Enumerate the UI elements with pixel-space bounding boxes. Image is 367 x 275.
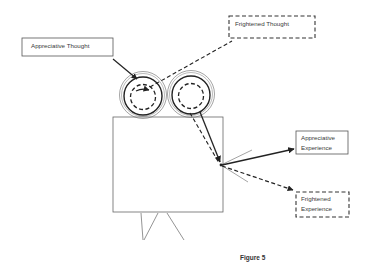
tripod-leg-left-line xyxy=(144,213,158,240)
figure-5-diagram: Appreciative Thought Frightened Thought xyxy=(0,0,367,275)
tripod-leg-left xyxy=(141,213,143,240)
appreciative-experience-box: Appreciative Experience xyxy=(296,131,348,154)
camera-lens xyxy=(220,150,252,182)
frightened-thought-label: Frightened Thought xyxy=(235,20,289,27)
tripod-leg-right xyxy=(167,213,184,240)
frightened-thought-box: Frightened Thought xyxy=(229,16,315,38)
frightened-experience-label-line2: Experience xyxy=(301,205,333,212)
arrow-appreciative-thought-to-reel xyxy=(113,59,137,79)
camera-left-reel xyxy=(120,72,167,119)
figure-caption: Figure 5 xyxy=(240,254,266,262)
appreciative-thought-box: Appreciative Thought xyxy=(22,38,113,56)
appreciative-thought-label: Appreciative Thought xyxy=(31,42,90,49)
arrow-reel-to-lens-solid xyxy=(200,112,220,162)
appreciative-experience-label-line2: Experience xyxy=(301,144,333,151)
frightened-experience-label-line1: Frightened xyxy=(301,195,331,202)
camera-body xyxy=(113,117,223,212)
camera-right-reel xyxy=(168,71,215,118)
frightened-experience-box: Frightened Experience xyxy=(296,192,349,217)
arrow-reel-to-lens-dashed xyxy=(190,113,219,163)
appreciative-experience-label-line1: Appreciative xyxy=(301,134,336,141)
arrow-lens-to-frightened-experience xyxy=(222,166,293,190)
arrow-lens-to-appreciative-experience xyxy=(222,149,294,165)
